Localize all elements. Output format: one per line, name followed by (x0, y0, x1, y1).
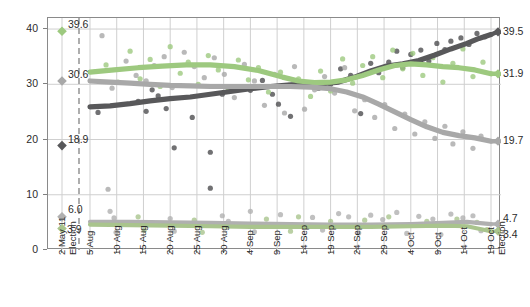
scatter-point (448, 39, 453, 44)
election-value-label: 30.6 (68, 69, 88, 79)
scatter-point (420, 73, 425, 78)
scatter-point (276, 102, 281, 107)
y-axis-title: % Popular support (0, 0, 16, 18)
final-election-marker (493, 69, 501, 78)
trend-line (90, 64, 491, 83)
scatter-point (360, 63, 365, 68)
scatter-point (164, 106, 169, 111)
scatter-point (308, 94, 313, 99)
x-axis-tick-label: 25 Aug (192, 225, 202, 255)
election-value-label: 18.9 (68, 134, 88, 144)
scatter-point (470, 213, 475, 218)
scatter-point (342, 65, 347, 70)
scatter-point (252, 78, 257, 83)
scatter-point (128, 49, 133, 54)
scatter-point (416, 214, 421, 219)
scatter-point (418, 47, 423, 52)
election-value-label: 6.0 (68, 204, 83, 214)
scatter-point (474, 31, 479, 36)
scatter-point (432, 136, 437, 141)
final-value-label: 19.7 (503, 135, 523, 145)
scatter-point (99, 33, 104, 38)
scatter-point (144, 109, 149, 114)
x-axis-tick-label: 20 Aug (165, 225, 175, 255)
scatter-point (212, 55, 217, 60)
scatter-point (380, 217, 385, 222)
scatter-point (288, 229, 293, 234)
scatter-point (202, 75, 207, 80)
scatter-point (136, 214, 141, 219)
scatter-point (190, 115, 195, 120)
scatter-point (430, 216, 435, 221)
y-axis-tick-label: 20 (12, 134, 38, 144)
trend-line (90, 35, 491, 107)
scatter-point (172, 145, 177, 150)
x-axis-tick-label: 24 Sep (352, 225, 362, 255)
y-axis-tick-label: 40 (12, 23, 38, 33)
scatter-point (248, 209, 253, 214)
scatter-point (134, 73, 139, 78)
scatter-point (162, 54, 167, 59)
scatter-point (236, 57, 241, 62)
scatter-point (103, 62, 108, 67)
final-value-label: 39.5 (503, 26, 523, 36)
scatter-point (346, 214, 351, 219)
final-value-label: 4.7 (503, 213, 518, 223)
scatter-point (208, 186, 213, 191)
election-result-marker (57, 26, 67, 36)
x-axis-tick-label: 14 Sep (299, 225, 309, 255)
scatter-point (266, 89, 271, 94)
scatter-point (220, 213, 225, 218)
scatter-point (222, 72, 227, 77)
scatter-point (123, 58, 128, 63)
scatter-point (380, 75, 385, 80)
x-axis-tick-label: 14 Oct (459, 227, 469, 255)
chart-root: % Popular support 010203040 2 May 11Elec… (0, 0, 530, 307)
final-value-label: 3.4 (503, 229, 518, 239)
scatter-point (460, 215, 465, 220)
scatter-point (107, 209, 112, 214)
scatter-point (260, 78, 265, 83)
scatter-point (386, 214, 391, 219)
scatter-point (368, 213, 373, 218)
scatter-point (206, 53, 211, 58)
scatter-point (150, 87, 155, 92)
scatter-point (352, 108, 357, 113)
y-axis-tick-mark (43, 249, 47, 250)
scatter-point (372, 115, 377, 120)
scatter-point (278, 212, 283, 217)
scatter-point (470, 146, 475, 151)
scatter-point (412, 131, 417, 136)
scatter-point (322, 74, 327, 79)
scatter-point (292, 64, 297, 69)
x-axis-tick-label: 5 Aug (85, 231, 95, 255)
x-axis-tick-label: 4 Sep (245, 230, 255, 255)
scatter-point (168, 44, 173, 49)
x-axis-tick-label: 9 Oct (433, 232, 443, 255)
scatter-point (138, 76, 143, 81)
y-axis-tick-label: 30 (12, 78, 38, 88)
scatter-point (208, 150, 213, 155)
scatter-point (318, 68, 323, 73)
y-axis-tick-label: 10 (12, 189, 38, 199)
scatter-point (310, 215, 315, 220)
scatter-point (246, 77, 251, 82)
scatter-point (340, 56, 345, 61)
x-axis-tick-label: 29 Sep (379, 225, 389, 255)
scatter-point (392, 126, 397, 131)
scatter-point (358, 111, 363, 116)
x-axis-tick-label: 4 Oct (406, 232, 416, 255)
scatter-point (394, 210, 399, 215)
scatter-point (470, 74, 475, 79)
scatter-point (362, 218, 367, 223)
plot-area (47, 17, 500, 249)
election-value-label: 3.9 (67, 224, 82, 234)
x-axis-tick-label: 19 Oct (486, 227, 496, 255)
scatter-point (390, 47, 395, 52)
x-axis-tick-label: 10 Aug (112, 225, 122, 255)
scatter-point (448, 211, 453, 216)
scatter-point (410, 51, 415, 56)
scatter-point (302, 107, 307, 112)
x-axis-tick-label: 9 Sep (272, 230, 282, 255)
scatter-point (336, 211, 341, 216)
